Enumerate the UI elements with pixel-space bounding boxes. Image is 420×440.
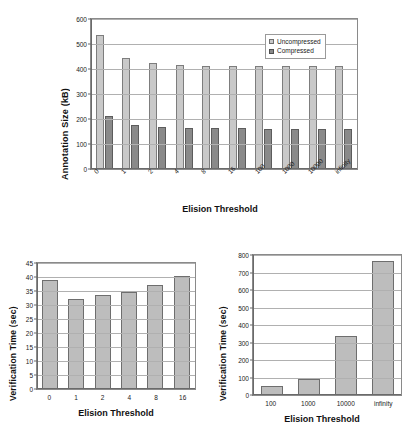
bar-group	[63, 263, 89, 389]
y-axis-line	[37, 263, 38, 389]
x-axis-tick-label: 4	[116, 394, 143, 401]
x-axis-ticks: 100100010000infinity	[252, 400, 402, 407]
bar	[42, 280, 58, 389]
y-axis-line	[253, 255, 254, 395]
x-axis-tick-label: infinity	[365, 400, 403, 407]
y-axis-title: Verification Time (sec)	[8, 266, 18, 401]
gridline	[37, 361, 195, 362]
x-axis-title: Elision Threshold	[80, 204, 360, 214]
x-axis-ticks: 0124816	[36, 394, 196, 401]
x-axis-line	[37, 388, 195, 389]
bar-group	[116, 263, 142, 389]
bar-group	[90, 263, 116, 389]
bar-group	[37, 263, 63, 389]
legend-swatch-icon	[269, 39, 274, 44]
x-axis-tick-label: 1	[63, 394, 90, 401]
bar-group	[142, 263, 168, 389]
gridline	[37, 291, 195, 292]
legend-label: Uncompressed	[277, 37, 321, 46]
plot-area: 051015202530354045	[36, 262, 196, 390]
y-axis-title: Annotation Size (kB)	[60, 30, 70, 180]
gridline	[253, 273, 401, 274]
x-axis-title: Elision Threshold	[26, 408, 206, 418]
x-axis-title: Elision Threshold	[232, 414, 412, 424]
bar	[372, 261, 394, 395]
gridline	[37, 277, 195, 278]
gridline	[37, 319, 195, 320]
gridline	[253, 255, 401, 256]
gridline	[253, 308, 401, 309]
chart-annotation-size: Annotation Size (kB) 0100200300400500600…	[60, 12, 360, 227]
bar	[96, 35, 104, 169]
gridline	[37, 263, 195, 264]
gridline	[37, 347, 195, 348]
bar	[335, 336, 357, 395]
gridline	[37, 305, 195, 306]
plot-area: 0100200300400500600700800	[252, 254, 402, 396]
gridline	[253, 290, 401, 291]
gridline	[253, 325, 401, 326]
bar	[202, 66, 210, 170]
y-axis-title: Verification Time (sec)	[218, 266, 228, 401]
bar	[149, 63, 157, 169]
bar	[335, 66, 343, 169]
gridline	[91, 19, 357, 20]
bar-group	[169, 263, 195, 389]
gridline	[91, 69, 357, 70]
bar	[282, 66, 290, 169]
bar	[255, 66, 263, 169]
x-axis-tick-label: 1000	[290, 400, 328, 407]
gridline	[91, 94, 357, 95]
x-axis-line	[253, 394, 401, 395]
chart-legend: UncompressedCompressed	[265, 34, 326, 59]
x-axis-tick-label: 2	[89, 394, 116, 401]
legend-label: Compressed	[277, 46, 314, 55]
bar	[309, 66, 317, 169]
gridline	[253, 378, 401, 379]
legend-swatch-icon	[269, 49, 274, 54]
x-axis-tick-label: 100	[252, 400, 290, 407]
bar	[147, 285, 163, 389]
x-axis-tick-label: 8	[143, 394, 170, 401]
x-axis-ticks: 0124816100100010000infinity	[90, 174, 358, 181]
bar	[229, 66, 237, 170]
gridline	[91, 144, 357, 145]
legend-item: Uncompressed	[269, 37, 321, 46]
bar-series-container	[37, 263, 195, 389]
legend-item: Compressed	[269, 46, 321, 55]
chart-verification-time-small: Verification Time (sec) 0510152025303540…	[8, 258, 206, 436]
chart-verification-time-large: Verification Time (sec) 0100200300400500…	[218, 248, 416, 436]
x-axis-tick-label: 0	[36, 394, 63, 401]
x-axis-tick-label: 10000	[327, 400, 365, 407]
bar	[122, 58, 130, 170]
bar	[298, 379, 320, 395]
y-axis-line	[91, 19, 92, 169]
bar	[176, 65, 184, 170]
gridline	[91, 119, 357, 120]
gridline	[37, 333, 195, 334]
gridline	[37, 375, 195, 376]
x-axis-tick-label: 16	[169, 394, 196, 401]
gridline	[253, 343, 401, 344]
gridline	[253, 360, 401, 361]
